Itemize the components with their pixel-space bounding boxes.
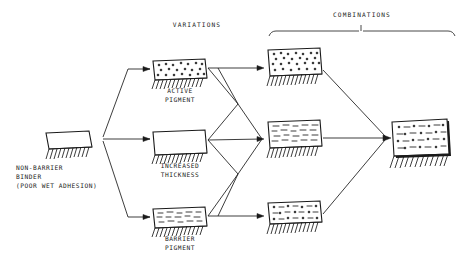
convergence-connectors: [323, 70, 389, 214]
source-label-line2: BINDER: [16, 173, 42, 180]
variation-block-barrier-pigment: [152, 207, 207, 237]
variation-label-thickness-line2: THICKNESS: [161, 171, 199, 178]
variation-label-thickness-line1: INCREASED: [161, 162, 199, 169]
arrowhead-to-combination-3: [257, 214, 264, 219]
source-label-line1: NON-BARRIER: [16, 164, 63, 171]
header-combinations: COMBINATIONS: [333, 11, 391, 18]
variation-label-barrier-line1: BARRIER: [165, 235, 195, 242]
variation-block-increased-thickness: [152, 130, 207, 164]
arrowhead-to-thickness: [143, 137, 150, 142]
variation-label-active-line2: PIGMENT: [165, 96, 195, 103]
variation-label-active-line1: ACTIVE: [167, 87, 193, 94]
arrowhead-to-barrier: [143, 215, 150, 220]
arrowhead-to-result: [383, 135, 391, 141]
source-block: [46, 131, 92, 159]
variation-label-barrier-line2: PIGMENT: [165, 244, 195, 251]
arrowhead-to-active: [143, 67, 150, 72]
crossing-connectors: [208, 68, 262, 216]
fanout-connectors: [103, 69, 150, 217]
source-label-line3: (POOR WET ADHESION): [16, 182, 97, 189]
combinations-brace: [269, 25, 455, 36]
header-variations: VARIATIONS: [173, 21, 221, 28]
arrowhead-to-combination-1: [257, 66, 264, 71]
variation-block-active-pigment: [152, 59, 207, 89]
combination-block-1: [267, 48, 322, 86]
barrier-pigment-diagram: VARIATIONS COMBINATIONS NON-BARRIER BIND…: [0, 0, 464, 270]
combination-block-2: [267, 120, 322, 158]
result-block: [390, 119, 451, 168]
combination-block-3: [267, 201, 322, 234]
